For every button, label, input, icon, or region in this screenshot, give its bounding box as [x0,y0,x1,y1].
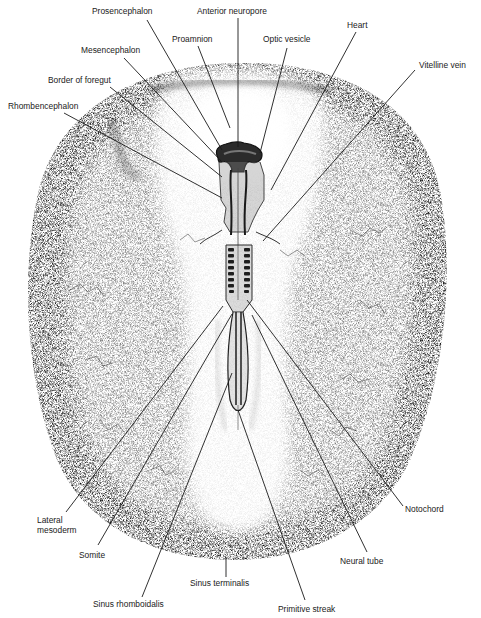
label-notochord: Notochord [405,504,444,514]
label-prosencephalon: Prosencephalon [92,6,153,16]
label-mesencephalon: Mesencephalon [81,45,140,55]
label-anterior-neuropore: Anterior neuropore [197,6,267,16]
label-lateral-mesoderm: Lateral mesoderm [37,515,77,535]
label-rhombencephalon: Rhombencephalon [8,101,78,111]
label-optic-vesicle: Optic vesicle [263,34,310,44]
label-neural-tube: Neural tube [340,556,383,566]
label-primitive-streak: Primitive streak [278,604,335,614]
label-sinus-terminalis: Sinus terminalis [190,578,249,588]
label-vitelline-vein: Vitelline vein [419,60,466,70]
label-border-of-foregut: Border of foregut [48,75,111,85]
label-proamnion: Proamnion [172,34,213,44]
label-somite: Somite [79,550,105,560]
label-sinus-rhomboidalis: Sinus rhomboidalis [93,599,164,609]
label-heart: Heart [347,20,367,30]
